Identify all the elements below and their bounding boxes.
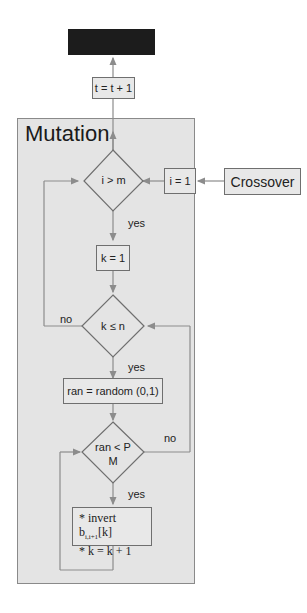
action-line1-suffix: [k] [98,525,112,539]
init-i-box: i = 1 [164,168,196,194]
decision-k-label: k ≤ n [82,320,144,332]
action-line1-sub: i,i+1 [85,533,98,541]
output-box [68,29,155,55]
yes-label-3: yes [128,488,145,500]
no-label-1: no [60,313,72,325]
random-label: ran = random (0,1) [67,385,158,397]
yes-label-1: yes [128,217,145,229]
decision-i-label: i > m [84,174,143,186]
init-k-box: k = 1 [96,245,130,271]
random-box: ran = random (0,1) [63,378,163,404]
crossover-box: Crossover [224,168,301,195]
decision-ran-line2: M [108,455,117,467]
init-i-label: i = 1 [169,175,190,187]
action-line1: * invert bi,i+1[k] [79,511,145,544]
init-k-label: k = 1 [101,252,125,264]
crossover-label: Crossover [231,174,295,190]
no-label-2: no [164,432,176,444]
action-box: * invert bi,i+1[k] * k = k + 1 [72,507,152,546]
increment-label: t = t + 1 [95,82,132,94]
connector-lines [0,0,307,613]
decision-ran-label: ran < P M [82,440,144,468]
yes-label-2: yes [128,361,145,373]
action-line2: * k = k + 1 [79,544,145,558]
increment-box: t = t + 1 [92,77,135,99]
decision-ran-line1: ran < P [95,441,131,453]
